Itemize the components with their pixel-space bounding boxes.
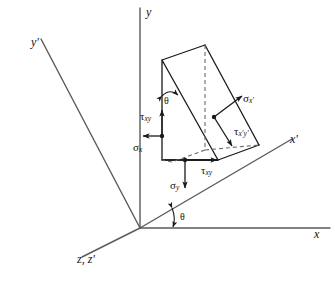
tau-xy-subscript: xy: [144, 114, 151, 123]
y-axis-label: y: [146, 6, 151, 18]
z-z-prime-axis-label: z, z': [77, 253, 95, 265]
diagram-canvas: [0, 0, 335, 281]
y-prime-axis-line: [41, 39, 140, 228]
wedge-front-face: [162, 60, 218, 160]
tau-xy-bottom-label: τxy: [201, 165, 212, 177]
tau-x-prime-y-prime-subscript: x'y': [238, 129, 248, 138]
x-prime-axis-line: [140, 139, 292, 228]
wedge-bottom-right-edge: [218, 145, 259, 160]
wedge-element: [162, 45, 259, 165]
theta-origin-indicator: [172, 208, 174, 227]
sigma-x-prime-subscript: x': [249, 96, 254, 105]
sigma-y-label: σy: [170, 180, 179, 192]
sigma-x-subscript: x: [139, 145, 142, 154]
sigma-x-label: σx: [133, 142, 142, 154]
x-prime-axis-label: x': [290, 133, 298, 145]
theta-angle-top-label: θ: [164, 96, 169, 106]
wedge-top-edge: [162, 45, 205, 60]
tau-xy-bottom-subscript: xy: [205, 168, 212, 177]
tau-xy-left-label: τxy: [140, 111, 151, 123]
tau-x-prime-y-prime-arrow: [214, 117, 232, 146]
x-axis-label: x: [314, 228, 319, 240]
tau-x-prime-y-prime-label: τx'y': [234, 126, 249, 138]
sigma-y-arrow: [183, 158, 187, 188]
sigma-x-prime-label: σx': [243, 93, 254, 105]
y-prime-axis-label: y': [31, 36, 39, 48]
sigma-x-arrow: [143, 134, 164, 138]
sigma-x-prime-arrow: [212, 96, 242, 119]
stress-transformation-figure: y y' x' x z, z' θ θ τxy σx σy τxy σx' τx…: [0, 0, 335, 281]
coordinate-axes: [41, 8, 330, 257]
sigma-y-subscript: y: [176, 183, 179, 192]
theta-angle-origin-label: θ: [180, 212, 185, 222]
